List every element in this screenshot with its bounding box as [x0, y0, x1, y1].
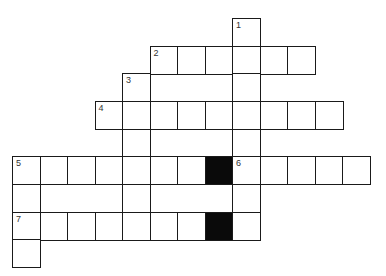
crossword-cell[interactable]: [12, 184, 41, 213]
clue-number: 3: [126, 75, 131, 85]
crossword-cell[interactable]: [260, 156, 289, 185]
clue-number: 6: [236, 158, 241, 168]
crossword-cell[interactable]: [95, 212, 124, 241]
crossword-cell[interactable]: [232, 73, 261, 102]
crossword-cell[interactable]: [95, 156, 124, 185]
crossword-cell[interactable]: 7: [12, 212, 41, 241]
crossword-cell[interactable]: [12, 239, 41, 268]
crossword-cell[interactable]: [177, 46, 206, 75]
crossword-cell[interactable]: [342, 156, 371, 185]
crossword-cell[interactable]: [122, 101, 151, 130]
crossword-cell[interactable]: [122, 184, 151, 213]
clue-number: 5: [16, 158, 21, 168]
black-square: [205, 212, 234, 241]
crossword-cell[interactable]: 2: [150, 46, 179, 75]
crossword-cell[interactable]: [150, 101, 179, 130]
crossword-cell[interactable]: [177, 101, 206, 130]
crossword-cell[interactable]: [40, 212, 69, 241]
crossword-cell[interactable]: [177, 212, 206, 241]
crossword-grid: 1234567: [0, 0, 386, 276]
clue-number: 7: [16, 214, 21, 224]
crossword-cell[interactable]: [315, 101, 344, 130]
crossword-cell[interactable]: [232, 129, 261, 158]
crossword-cell[interactable]: [260, 46, 289, 75]
black-square: [205, 156, 234, 185]
crossword-cell[interactable]: [232, 46, 261, 75]
crossword-cell[interactable]: 6: [232, 156, 261, 185]
crossword-cell[interactable]: 4: [95, 101, 124, 130]
crossword-cell[interactable]: [67, 212, 96, 241]
crossword-cell[interactable]: [232, 101, 261, 130]
crossword-cell[interactable]: 1: [232, 18, 261, 47]
crossword-cell[interactable]: 3: [122, 73, 151, 102]
crossword-cell[interactable]: [205, 46, 234, 75]
crossword-cell[interactable]: [232, 184, 261, 213]
crossword-cell[interactable]: [122, 156, 151, 185]
crossword-cell[interactable]: [122, 129, 151, 158]
crossword-cell[interactable]: [40, 156, 69, 185]
crossword-cell[interactable]: [150, 212, 179, 241]
clue-number: 4: [99, 103, 104, 113]
crossword-cell[interactable]: 5: [12, 156, 41, 185]
crossword-cell[interactable]: [205, 101, 234, 130]
crossword-cell[interactable]: [150, 156, 179, 185]
clue-number: 1: [236, 20, 241, 30]
clue-number: 2: [154, 48, 159, 58]
crossword-cell[interactable]: [67, 156, 96, 185]
crossword-cell[interactable]: [287, 101, 316, 130]
crossword-cell[interactable]: [287, 156, 316, 185]
crossword-cell[interactable]: [177, 156, 206, 185]
crossword-cell[interactable]: [260, 101, 289, 130]
crossword-cell[interactable]: [122, 212, 151, 241]
crossword-cell[interactable]: [287, 46, 316, 75]
crossword-cell[interactable]: [232, 212, 261, 241]
crossword-cell[interactable]: [315, 156, 344, 185]
